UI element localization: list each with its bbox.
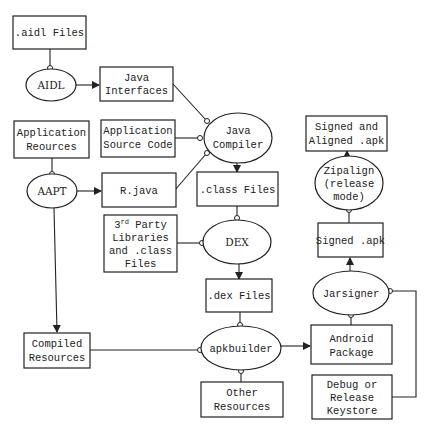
edge-java-interfaces-to-compiler	[173, 84, 206, 120]
node-label: Application	[103, 125, 172, 137]
node-label: Files	[125, 258, 157, 270]
node-label: Jarsigner	[323, 288, 380, 300]
node-application-resources: Application Reources	[14, 121, 89, 158]
node-other-resources: Other Resources	[201, 382, 283, 417]
edge-keystore-to-jarsigner	[392, 291, 416, 397]
node-label: Zipalign	[324, 165, 374, 177]
node-dex: DEX	[203, 220, 271, 264]
node-label: AAPT	[36, 185, 66, 197]
node-label: Compiler	[213, 139, 263, 151]
node-label: and .class	[109, 245, 172, 257]
input-port-icon	[198, 136, 203, 141]
node-label: Other	[226, 387, 258, 399]
node-java-interfaces: Java Interfaces	[100, 67, 173, 101]
node-label: mode)	[333, 191, 365, 203]
node-label: Resources	[214, 401, 271, 413]
node-label: Java	[225, 125, 250, 137]
node-label: Libraries	[112, 232, 169, 244]
build-process-diagram: .aidl Files AIDL Java Interfaces Applica…	[0, 0, 430, 435]
node-signed-apk: Signed .apk	[316, 223, 385, 257]
node-label: apkbuilder	[209, 343, 272, 355]
node-label: (release	[324, 178, 374, 190]
node-aidl: AIDL	[26, 69, 76, 101]
node-label: Interfaces	[105, 85, 168, 97]
node-label: Aligned .apk	[309, 135, 385, 147]
node-label: Application	[17, 127, 86, 139]
node-zipalign: Zipalign (release mode)	[315, 156, 383, 210]
node-label: Android	[329, 333, 373, 345]
node-dex-files: .dex Files	[206, 279, 272, 312]
node-class-files: .class Files	[197, 172, 278, 206]
node-compiled-resources: Compiled Resources	[24, 333, 90, 368]
node-label: .dex Files	[207, 290, 270, 302]
node-label: Java	[124, 72, 149, 84]
node-signed-aligned-apk: Signed and Aligned .apk	[306, 116, 387, 151]
node-label: Reources	[26, 141, 76, 153]
node-label: .class Files	[200, 184, 276, 196]
node-label: Debug or	[327, 379, 377, 391]
node-apkbuilder: apkbuilder	[201, 326, 281, 370]
node-label: Release	[330, 392, 374, 404]
node-label: Package	[329, 347, 373, 359]
node-java-compiler: Java Compiler	[204, 113, 272, 163]
node-label: .aidl Files	[15, 27, 84, 39]
node-r-java: R.java	[102, 173, 176, 207]
node-label: Source Code	[103, 139, 172, 151]
node-aidl-files: .aidl Files	[13, 16, 86, 49]
node-keystore: Debug or Release Keystore	[312, 375, 392, 419]
node-label: DEX	[225, 236, 249, 248]
node-label: Resources	[29, 352, 86, 364]
node-label: R.java	[120, 185, 158, 197]
node-label: Signed and	[315, 121, 378, 133]
node-android-package: Android Package	[311, 325, 392, 364]
input-port-icon	[205, 119, 210, 124]
node-application-source-code: Application Source Code	[101, 120, 175, 157]
node-label: Signed .apk	[316, 235, 385, 247]
edge-aapt-to-compiled-resources	[54, 208, 57, 332]
node-label: Compiled	[32, 338, 82, 350]
node-jarsigner: Jarsigner	[313, 271, 389, 315]
node-label: Keystore	[327, 405, 377, 417]
node-aapt: AAPT	[27, 174, 77, 208]
node-third-party-libraries: 3rd Party Libraries and .class Files	[104, 215, 177, 272]
node-label: AIDL	[36, 79, 64, 91]
